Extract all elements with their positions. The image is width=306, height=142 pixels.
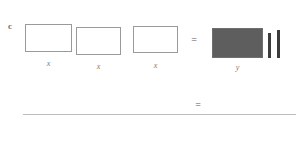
open-box-1 (25, 24, 72, 52)
open-box-3-label: x (133, 62, 178, 70)
open-box-2-label: x (76, 63, 121, 71)
open-box-2 (76, 27, 121, 55)
shaded-box-y (212, 28, 263, 58)
equals-sign-bottom: = (190, 100, 206, 110)
part-label-c: c (8, 22, 12, 31)
open-box-1-label: x (25, 60, 72, 68)
diagram-canvas: c x x x = y = (0, 0, 306, 142)
open-box-3 (133, 26, 178, 53)
equals-sign-top: = (186, 35, 202, 45)
shaded-box-y-label: y (212, 64, 263, 72)
horizontal-rule (23, 114, 296, 115)
unit-bar-1 (268, 33, 271, 58)
unit-bar-2 (277, 30, 280, 58)
